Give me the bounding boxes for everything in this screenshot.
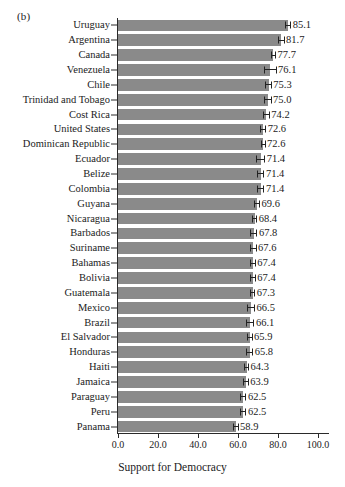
chart-row: Bahamas67.4: [0, 256, 345, 271]
chart-row: Uruguay85.1: [0, 18, 345, 33]
x-axis-tick: [158, 433, 159, 438]
chart-row: Ecuador71.4: [0, 152, 345, 167]
chart-row: Colombia71.4: [0, 181, 345, 196]
x-axis-tick-label: 100.0: [307, 440, 330, 450]
category-label: Uruguay: [73, 20, 110, 31]
error-bar: [244, 364, 249, 371]
x-axis-title: Support for Democracy: [0, 461, 345, 473]
category-label: Colombia: [69, 184, 110, 195]
chart-row: Argentina81.7: [0, 33, 345, 48]
category-label: Ecuador: [75, 154, 110, 165]
chart-row: Venezuela76.1: [0, 63, 345, 78]
value-label: 67.6: [258, 243, 276, 254]
error-bar: [243, 378, 249, 385]
error-bar: [252, 215, 257, 222]
category-label: Panama: [77, 421, 110, 432]
value-label: 71.4: [267, 154, 285, 165]
category-label: Haiti: [89, 362, 110, 373]
bar: [118, 213, 255, 225]
bar: [118, 153, 261, 165]
category-label: Trinidad and Tobago: [23, 94, 110, 105]
value-label: 75.0: [273, 94, 291, 105]
chart-row: Canada77.7: [0, 48, 345, 63]
value-label: 81.7: [286, 35, 304, 46]
category-label: El Salvador: [61, 332, 110, 343]
category-label: Belize: [83, 169, 110, 180]
x-axis-tick-label: 80.0: [269, 440, 287, 450]
value-label: 71.4: [266, 169, 284, 180]
error-bar: [247, 304, 255, 311]
chart-row: United States72.6: [0, 122, 345, 137]
value-label: 75.3: [273, 80, 291, 91]
bar: [118, 124, 263, 136]
x-axis-line: [117, 433, 329, 434]
error-bar: [246, 349, 253, 356]
value-label: 72.6: [267, 139, 285, 150]
value-label: 67.4: [257, 258, 275, 269]
category-label: Suriname: [70, 243, 110, 254]
category-label: Argentina: [68, 35, 110, 46]
x-axis-tick: [118, 433, 119, 438]
error-bar: [265, 81, 271, 88]
bar: [118, 34, 281, 46]
category-label: Dominican Republic: [23, 139, 110, 150]
value-label: 66.1: [256, 317, 274, 328]
error-bar: [261, 141, 266, 148]
chart-row: Honduras65.8: [0, 345, 345, 360]
bar: [118, 317, 250, 329]
category-label: Guatemala: [65, 288, 110, 299]
bar: [118, 272, 253, 284]
chart-row: Panama58.9: [0, 419, 345, 434]
error-bar: [264, 66, 277, 73]
error-bar: [257, 185, 264, 192]
value-label: 85.1: [293, 20, 311, 31]
value-label: 76.1: [278, 65, 296, 76]
bar: [118, 406, 243, 418]
chart-row: Mexico66.5: [0, 300, 345, 315]
category-label: Chile: [87, 80, 110, 91]
category-label: Venezuela: [67, 65, 110, 76]
category-label: Bahamas: [72, 258, 111, 269]
bar: [118, 168, 261, 180]
bar: [118, 79, 269, 91]
bar: [118, 391, 243, 403]
value-label: 69.6: [262, 198, 280, 209]
value-label: 62.5: [248, 392, 266, 403]
chart-row: Brazil66.1: [0, 315, 345, 330]
error-bar: [263, 111, 270, 118]
error-bar: [278, 37, 284, 44]
bar: [118, 376, 246, 388]
category-label: Nicaragua: [67, 213, 110, 224]
error-bar: [257, 170, 264, 177]
chart-row: Belize71.4: [0, 167, 345, 182]
error-bar: [285, 22, 291, 29]
chart-row: Guyana69.6: [0, 196, 345, 211]
category-label: Barbados: [70, 228, 110, 239]
error-bar: [246, 319, 254, 326]
figure-panel-b: (b) Uruguay85.1Argentina81.7Canada77.7Ve…: [0, 0, 345, 487]
chart-row: Paraguay62.5: [0, 389, 345, 404]
plot-area: Uruguay85.1Argentina81.7Canada77.7Venezu…: [0, 18, 345, 434]
chart-row: Guatemala67.3: [0, 285, 345, 300]
category-label: United States: [54, 124, 110, 135]
bar: [118, 94, 268, 106]
error-bar: [240, 393, 247, 400]
bar: [118, 287, 253, 299]
x-axis-tick: [198, 433, 199, 438]
error-bar: [247, 334, 253, 341]
value-label: 64.3: [251, 362, 269, 373]
chart-row: Cost Rica74.2: [0, 107, 345, 122]
chart-row: Suriname67.6: [0, 241, 345, 256]
x-axis-tick-label: 20.0: [149, 440, 167, 450]
value-label: 58.9: [240, 421, 258, 432]
chart-row: Nicaragua68.4: [0, 211, 345, 226]
bar: [118, 109, 266, 121]
value-label: 66.5: [257, 302, 275, 313]
value-label: 62.5: [248, 406, 266, 417]
chart-row: El Salvador65.9: [0, 330, 345, 345]
bar: [118, 198, 257, 210]
error-bar: [264, 96, 271, 103]
error-bar: [250, 274, 256, 281]
x-axis-tick: [318, 433, 319, 438]
chart-row: Haiti64.3: [0, 360, 345, 375]
